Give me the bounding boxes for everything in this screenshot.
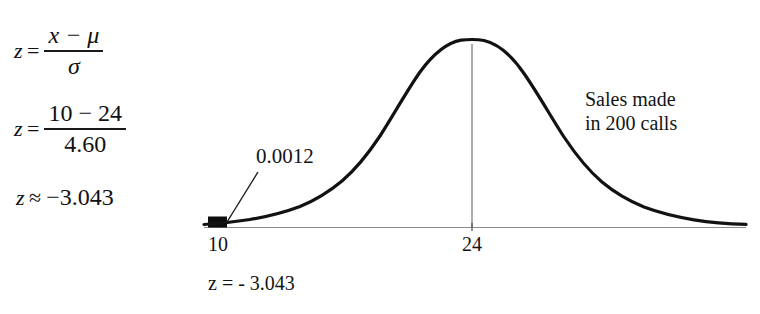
formula-1-fraction-bar bbox=[44, 50, 103, 52]
formula-line-3: z ≈ −3.043 bbox=[16, 184, 114, 211]
chart-caption: Sales made in 200 calls bbox=[585, 88, 677, 135]
formula-line-2: z = 10 − 24 4.60 bbox=[14, 100, 126, 158]
tail-area-leader-line bbox=[227, 172, 258, 222]
formula-1-denominator: σ bbox=[64, 53, 84, 80]
z-score-note: z = - 3.043 bbox=[208, 272, 295, 295]
formula-2-lhs: z bbox=[14, 116, 23, 142]
formula-1-numerator: x − μ bbox=[44, 22, 103, 49]
x-axis-label-24: 24 bbox=[462, 233, 482, 256]
z-score-formula-block: z = x − μ σ z = 10 − 24 4.60 z ≈ −3.043 bbox=[14, 18, 189, 218]
formula-2-relation: = bbox=[23, 116, 44, 142]
formula-2-fraction: 10 − 24 4.60 bbox=[44, 100, 126, 158]
figure-page: z = x − μ σ z = 10 − 24 4.60 z ≈ −3.043 bbox=[0, 0, 760, 314]
normal-distribution-chart: 0.0012 10 24 z = - 3.043 Sales made in 2… bbox=[190, 0, 760, 314]
formula-1-relation: = bbox=[23, 38, 44, 64]
formula-1-fraction: x − μ σ bbox=[44, 22, 103, 80]
tail-area-label: 0.0012 bbox=[256, 144, 314, 169]
formula-2-numerator: 10 − 24 bbox=[44, 100, 126, 127]
formula-3-lhs: z bbox=[16, 185, 25, 211]
formula-3-relation: ≈ bbox=[25, 185, 46, 211]
formula-1-lhs: z bbox=[14, 38, 23, 64]
formula-line-1: z = x − μ σ bbox=[14, 22, 103, 80]
formula-3-value: −3.043 bbox=[46, 184, 114, 211]
formula-2-fraction-bar bbox=[44, 128, 126, 130]
formula-2-denominator: 4.60 bbox=[60, 131, 110, 158]
x-axis-label-10: 10 bbox=[208, 233, 228, 256]
